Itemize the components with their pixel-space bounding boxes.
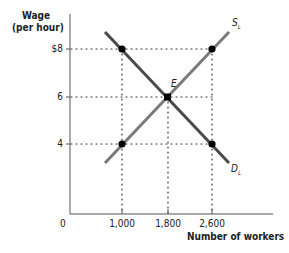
y-tick-label-4: 4: [57, 138, 63, 149]
axes: [66, 14, 273, 214]
supply-label-sub: L: [238, 23, 241, 30]
supply-curve-label: SL: [232, 17, 241, 30]
demand-curve-label: DL: [231, 163, 241, 176]
y-axis-label-line1: Wage: [12, 10, 60, 22]
labor-market-chart: [0, 0, 289, 253]
point-2600-4: [208, 140, 215, 147]
y-tick-label-6: 6: [57, 91, 63, 102]
x-tick-label-1000: 1,000: [109, 218, 135, 229]
x-axis-label: Number of workers: [187, 231, 284, 242]
y-tick-label-8: $8: [52, 43, 63, 54]
point-1000-8: [118, 45, 125, 52]
equilibrium-point: [164, 94, 171, 101]
x-tick-label-1800: 1,800: [155, 218, 181, 229]
demand-label-main: D: [231, 163, 238, 174]
demand-label-sub: L: [238, 169, 241, 176]
x-tick-label-2600: 2,600: [199, 218, 225, 229]
point-1000-4: [118, 140, 125, 147]
point-2600-8: [208, 45, 215, 52]
y-axis-label-line2: (per hour): [12, 22, 60, 34]
y-axis-label: Wage (per hour): [12, 10, 60, 34]
origin-label: 0: [60, 218, 66, 229]
equilibrium-label: E: [171, 78, 177, 89]
